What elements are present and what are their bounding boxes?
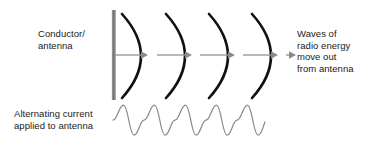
label-conductor-line2: antenna — [38, 40, 85, 52]
label-waves-line1: Waves of — [297, 28, 354, 40]
wavefront-arc-3 — [209, 14, 228, 98]
radio-wave-diagram: Conductor/ antenna Waves of radio energy… — [0, 0, 372, 147]
propagation-arrowhead-2 — [185, 51, 192, 59]
wavefront-arc-1 — [122, 14, 141, 98]
label-waves-line2: radio energy — [297, 40, 354, 52]
label-waves-of-radio-energy: Waves of radio energy move out from ante… — [297, 28, 354, 74]
propagation-arrow-group — [115, 51, 296, 59]
wavefront-arc-4 — [252, 14, 271, 98]
label-waves-line3: move out — [297, 51, 354, 63]
wavefront-arc-2 — [166, 14, 185, 98]
label-conductor-antenna: Conductor/ antenna — [38, 28, 85, 51]
alternating-current-sine-wave — [113, 105, 265, 135]
label-conductor-line1: Conductor/ — [38, 28, 85, 40]
label-waves-line4: from antenna — [297, 63, 354, 75]
label-alternating-line2: applied to antenna — [14, 120, 93, 132]
label-alternating-current: Alternating current applied to antenna — [14, 108, 93, 131]
propagation-arrowhead-5 — [289, 51, 296, 59]
label-alternating-line1: Alternating current — [14, 108, 93, 120]
propagation-arrowhead-3 — [228, 51, 235, 59]
propagation-arrowhead-1 — [141, 51, 148, 59]
propagation-arrowhead-4 — [271, 51, 278, 59]
